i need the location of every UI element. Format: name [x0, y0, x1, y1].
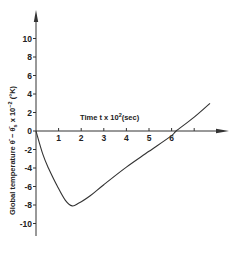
y-tick-label: 2 [27, 108, 32, 118]
y-tick-label: -2 [24, 145, 32, 155]
x-tick-label: 2 [79, 133, 84, 143]
x-tick-label: 5 [147, 133, 152, 143]
x-tick-label: 3 [101, 133, 106, 143]
x-axis-arrow-icon [216, 129, 229, 133]
y-tick-label: 8 [27, 52, 32, 62]
x-tick-label: 4 [124, 133, 129, 143]
x-tick-label: 1 [56, 133, 61, 143]
x-axis-title: Time t x 102(sec) [80, 112, 140, 122]
y-tick-label: 10 [23, 34, 33, 44]
y-axis-title: Global temperature θ̄ − θ̄s x 10−2 (°K) [7, 85, 18, 215]
chart: 1086420-2-4-6-8-10123456 Time t x 102(se… [0, 0, 240, 256]
y-tick-label: -10 [20, 219, 33, 229]
y-tick-label: -8 [24, 200, 32, 210]
y-tick-label: -6 [24, 182, 32, 192]
y-axis-arrow-icon [34, 10, 38, 22]
axes [34, 10, 229, 236]
y-tick-label: -4 [24, 163, 32, 173]
y-tick-label: 4 [27, 89, 32, 99]
y-tick-label: 6 [27, 71, 32, 81]
y-tick-label: 0 [27, 126, 32, 136]
